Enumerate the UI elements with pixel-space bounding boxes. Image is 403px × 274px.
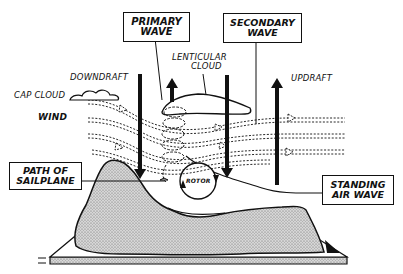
standing-air-wave-line2: AIR WAVE (332, 190, 384, 200)
mountain-wave-diagram: PRIMARY WAVE SECONDARY WAVE PATH OF SAIL… (0, 0, 403, 274)
downdraft-label: DOWNDRAFT (70, 73, 128, 82)
secondary-wave-line2: WAVE (247, 28, 278, 38)
rotor-label: ROTOR (186, 178, 211, 184)
lenticular-cloud-label: LENTICULAR CLOUD (172, 53, 227, 71)
lenticular-line2: CLOUD (172, 62, 227, 71)
cap-cloud (70, 90, 119, 100)
diagram-drawing (0, 0, 403, 274)
primary-wave-label: PRIMARY WAVE (123, 12, 190, 42)
updraft-label: UPDRAFT (291, 74, 332, 83)
cap-cloud-label: CAP CLOUD (14, 91, 65, 100)
wind-label: WIND (38, 113, 67, 122)
path-of-sailplane-label: PATH OF SAILPLANE (9, 162, 82, 190)
path-of-sailplane-line2: SAILPLANE (16, 176, 75, 186)
secondary-wave-label: SECONDARY WAVE (223, 13, 302, 43)
primary-wave-line2: WAVE (140, 27, 172, 38)
standing-air-wave-label: STANDING AIR WAVE (322, 175, 394, 205)
lenticular-cloud (162, 94, 251, 115)
